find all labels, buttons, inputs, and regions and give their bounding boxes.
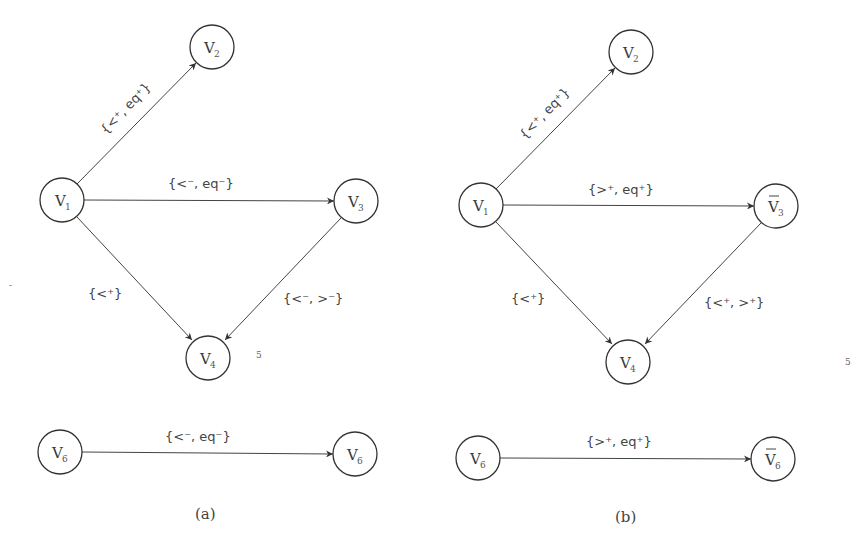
- side-marker-a: 5: [256, 350, 262, 360]
- stray-mark: -: [9, 280, 12, 290]
- svg-text:6: 6: [62, 454, 68, 464]
- edge-b-v1-v2: [496, 68, 615, 189]
- node-v6-left: V 6: [38, 430, 82, 474]
- edge-v6-v6: [82, 452, 333, 454]
- side-marker-b: 5: [845, 357, 851, 367]
- svg-text:1: 1: [483, 207, 489, 217]
- svg-text:6: 6: [480, 460, 486, 470]
- panel-a: {<⁺, eq⁺} {<⁻, eq⁻} {<⁺} {<⁻, >⁻} {<⁻, e…: [9, 25, 378, 523]
- edge-label-v6-v6: {<⁻, eq⁻}: [165, 429, 231, 444]
- node-b-v6-left: V 6: [456, 436, 500, 480]
- edge-label-b-v1-v2: {<⁺, eq⁺}: [516, 84, 572, 142]
- caption-b: (b): [615, 508, 636, 526]
- svg-text:4: 4: [210, 360, 216, 370]
- svg-text:3: 3: [358, 203, 364, 213]
- edge-label-b-v1-v3bar: {>⁺, eq⁺}: [588, 182, 654, 197]
- edge-label-v1-v3: {<⁻, eq⁻}: [168, 176, 234, 191]
- edge-v1-v4: [77, 217, 192, 340]
- node-v2: V 2: [190, 25, 234, 69]
- edge-label-b-v1-v4: {<⁺}: [511, 291, 545, 306]
- edge-label-text: {<⁺, eq⁺}: [516, 84, 572, 142]
- svg-text:4: 4: [630, 364, 636, 374]
- node-b-v6bar: V 6: [751, 437, 795, 481]
- node-v4: V 4: [186, 336, 230, 380]
- node-v3: V 3: [334, 179, 378, 223]
- node-v6-right: V 6: [333, 432, 377, 476]
- edge-label-b-v3bar-v4: {<⁺, >⁺}: [704, 295, 764, 310]
- svg-text:6: 6: [775, 461, 781, 471]
- edge-v1-v2: [77, 63, 196, 184]
- edge-b-v3bar-v4: [645, 223, 761, 344]
- svg-text:2: 2: [633, 54, 639, 64]
- node-b-v4: V 4: [606, 340, 650, 384]
- constraint-graph-figure: {<⁺, eq⁺} {<⁻, eq⁻} {<⁺} {<⁻, >⁻} {<⁻, e…: [0, 0, 863, 548]
- edge-label-text: {<⁺, eq⁺}: [97, 79, 153, 137]
- svg-text:2: 2: [214, 49, 220, 59]
- edge-b-v1-v3bar: [503, 205, 754, 206]
- svg-text:1: 1: [65, 202, 71, 212]
- edge-label-v1-v2: {<⁺, eq⁺}: [97, 79, 153, 137]
- edge-label-v1-v4: {<⁺}: [88, 286, 122, 301]
- svg-text:6: 6: [357, 456, 363, 466]
- svg-text:3: 3: [778, 208, 784, 218]
- edge-b-v1-v4: [496, 222, 612, 344]
- edge-v1-v3: [84, 200, 334, 201]
- node-b-v2: V 2: [609, 30, 653, 74]
- caption-a: (a): [195, 505, 216, 523]
- node-v1: V 1: [40, 178, 84, 222]
- edge-label-b-v6-v6bar: {>⁺, eq⁺}: [586, 434, 652, 449]
- edge-v3-v4: [225, 218, 341, 340]
- node-b-v3bar: V 3: [754, 184, 798, 228]
- edge-label-v3-v4: {<⁻, >⁻}: [283, 291, 343, 306]
- panel-b: {<⁺, eq⁺} {>⁺, eq⁺} {<⁺} {<⁺, >⁺} {>⁺, e…: [456, 30, 851, 526]
- node-b-v1: V 1: [459, 183, 503, 227]
- edge-b-v6-v6bar: [500, 458, 751, 459]
